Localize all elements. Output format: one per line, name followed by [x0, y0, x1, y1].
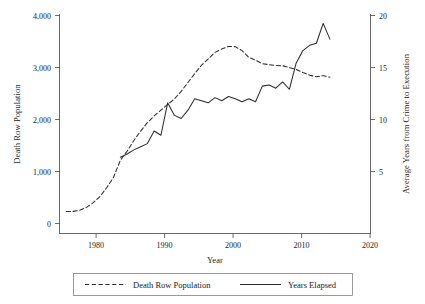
y-axis-right-ticks — [371, 16, 376, 172]
x-tick-label: 2020 — [362, 241, 378, 250]
legend: Death Row Population Years Elapsed — [74, 274, 353, 296]
x-axis-ticks — [96, 234, 370, 239]
x-tick-label: 2010 — [294, 241, 310, 250]
y2-tick-label: 15 — [379, 64, 387, 73]
y-axis-left-ticks — [55, 16, 60, 224]
y-axis-title: Death Row Population — [12, 84, 22, 164]
y2-tick-label: 5 — [379, 168, 383, 177]
legend-label-years-elapsed: Years Elapsed — [288, 280, 337, 290]
series-line-years-elapsed — [120, 23, 330, 157]
y2-tick-label: 20 — [379, 12, 387, 21]
x-axis-tick-labels: 1980 1990 2000 2010 2020 — [88, 241, 378, 250]
chart-figure: 4,000 3,000 2,000 1,000 0 20 15 10 5 198… — [0, 0, 425, 304]
series-line-death-row-population — [66, 46, 330, 211]
plot-area: 4,000 3,000 2,000 1,000 0 20 15 10 5 198… — [12, 12, 411, 266]
y-tick-label: 1,000 — [33, 168, 51, 177]
y2-axis-title: Average Years from Crime to Execution — [401, 53, 411, 194]
y-axis-right-tick-labels: 20 15 10 5 — [379, 12, 387, 177]
y-tick-label: 4,000 — [33, 12, 51, 21]
x-axis-title: Year — [207, 255, 223, 265]
x-tick-label: 2000 — [225, 241, 241, 250]
y-axis-left-tick-labels: 4,000 3,000 2,000 1,000 0 — [33, 12, 51, 229]
legend-label-death-row-population: Death Row Population — [133, 280, 211, 290]
x-tick-label: 1980 — [88, 241, 104, 250]
y-tick-label: 3,000 — [33, 64, 51, 73]
y-tick-label: 0 — [47, 220, 51, 229]
y-tick-label: 2,000 — [33, 116, 51, 125]
y2-tick-label: 10 — [379, 116, 387, 125]
x-tick-label: 1990 — [157, 241, 173, 250]
